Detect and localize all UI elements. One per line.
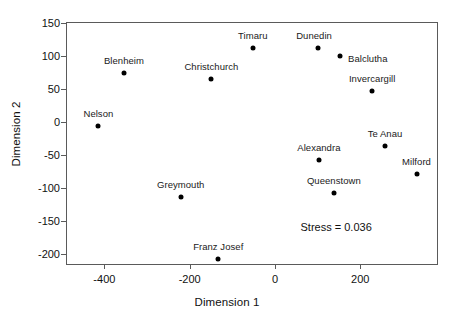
- data-point-label: Franz Josef: [193, 241, 243, 252]
- data-point-label: Dunedin: [296, 30, 332, 41]
- y-axis-title: Dimension 2: [10, 74, 22, 194]
- scatter-plot-figure: 150100500-50-100-150-200 -400-2000200 Ne…: [0, 0, 454, 324]
- data-point-marker: [337, 53, 342, 58]
- data-point-label: Blenheim: [104, 55, 144, 66]
- x-tick-label: -400: [93, 273, 115, 285]
- data-point-label: Balclutha: [348, 52, 388, 63]
- stress-annotation: Stress = 0.036: [301, 221, 372, 233]
- data-point-label: Greymouth: [157, 179, 204, 190]
- data-point-marker: [216, 256, 221, 261]
- data-point-label: Christchurch: [184, 61, 238, 72]
- x-tick-label: 0: [272, 273, 278, 285]
- data-point-marker: [414, 172, 419, 177]
- data-point-label: Milford: [402, 156, 431, 167]
- data-point-label: Alexandra: [297, 142, 340, 153]
- y-tick-label: 0: [22, 116, 60, 128]
- y-tick-label: 50: [22, 83, 60, 95]
- data-point-marker: [382, 143, 387, 148]
- y-tick-label: -200: [22, 248, 60, 260]
- y-tick-label: -50: [22, 149, 60, 161]
- plot-axes: [0, 0, 454, 324]
- data-point-marker: [209, 77, 214, 82]
- data-point-marker: [316, 157, 321, 162]
- y-tick-label: -150: [22, 215, 60, 227]
- data-point-label: Queenstown: [307, 175, 361, 186]
- data-point-marker: [121, 71, 126, 76]
- data-point-label: Te Anau: [368, 128, 403, 139]
- data-point-marker: [250, 46, 255, 51]
- data-point-label: Invercargill: [349, 73, 396, 84]
- y-tick-label: 150: [22, 17, 60, 29]
- data-point-label: Timaru: [238, 30, 268, 41]
- data-point-marker: [370, 89, 375, 94]
- x-tick-label: -200: [179, 273, 201, 285]
- data-point-marker: [96, 123, 101, 128]
- data-point-marker: [316, 45, 321, 50]
- x-tick-label: 200: [351, 273, 369, 285]
- y-tick-label: 100: [22, 50, 60, 62]
- data-point-marker: [331, 191, 336, 196]
- data-point-label: Nelson: [83, 108, 113, 119]
- y-tick-label: -100: [22, 182, 60, 194]
- data-point-marker: [178, 194, 183, 199]
- x-axis-title: Dimension 1: [0, 296, 454, 308]
